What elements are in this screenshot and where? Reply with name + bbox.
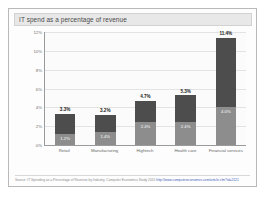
bar-segment-upper[interactable] — [95, 115, 115, 132]
x-axis-category-label: Retail — [47, 146, 81, 164]
bar-total-label: 5.3% — [180, 89, 190, 94]
x-axis-category-label: Financial services — [209, 146, 243, 164]
x-axis-category-label: Health care — [168, 146, 202, 164]
bar-total-label: 4.7% — [140, 94, 150, 99]
footnote-link[interactable]: http://www.computereconomics.com/article… — [156, 178, 238, 182]
bar-segment-upper[interactable] — [135, 101, 155, 123]
bar-series-group: 3.3%1.2%3.2%1.4%4.7%2.4%5.3%2.4%11.4%4.0… — [45, 32, 246, 145]
bar-column: 11.4%4.0% — [209, 32, 243, 145]
bar-segment-lower[interactable]: 4.0% — [216, 107, 236, 145]
bar-segment-lower[interactable]: 2.4% — [135, 122, 155, 145]
footnote: Source: IT Spending as a Percentage of R… — [15, 175, 250, 182]
bar-total-label: 3.3% — [60, 107, 70, 112]
plot-area-wrapper: 12%10%8%6%4%2%0% 3.3%1.2%3.2%1.4%4.7%2.4… — [14, 28, 252, 168]
bar-total-label: 11.4% — [219, 31, 232, 36]
chart-header: IT spend as a percentage of revenue — [14, 13, 252, 26]
y-axis-tick-label: 8% — [36, 67, 42, 72]
bar-segment-label: 1.2% — [60, 136, 70, 141]
bar-segment-label: 4.0% — [221, 109, 231, 114]
plot-area: 12%10%8%6%4%2%0% 3.3%1.2%3.2%1.4%4.7%2.4… — [44, 32, 246, 146]
y-axis-tick-label: 2% — [36, 124, 42, 129]
stacked-bar[interactable]: 3.2%1.4% — [95, 115, 115, 145]
stacked-bar[interactable]: 11.4%4.0% — [216, 38, 236, 145]
bar-segment-lower[interactable]: 2.4% — [175, 122, 195, 145]
bar-segment-upper[interactable] — [175, 95, 195, 122]
bar-column: 3.2%1.4% — [88, 32, 122, 145]
x-axis-category-label: Manufacturing — [87, 146, 121, 164]
bar-segment-upper[interactable] — [55, 114, 75, 134]
bar-column: 3.3%1.2% — [48, 32, 82, 145]
bar-column: 5.3%2.4% — [169, 32, 203, 145]
stacked-bar[interactable]: 5.3%2.4% — [175, 95, 195, 145]
x-axis-labels: RetailManufacturingHightechHealth careFi… — [44, 146, 246, 164]
y-axis-tick-label: 12% — [33, 30, 42, 35]
bar-segment-label: 2.4% — [141, 124, 151, 129]
stacked-bar[interactable]: 3.3%1.2% — [55, 114, 75, 145]
bar-segment-upper[interactable] — [216, 38, 236, 108]
bar-segment-lower[interactable]: 1.4% — [95, 132, 115, 145]
bar-segment-lower[interactable]: 1.2% — [55, 134, 75, 145]
x-axis-category-label: Hightech — [128, 146, 162, 164]
bar-segment-label: 2.4% — [181, 124, 191, 129]
bar-total-label: 3.2% — [100, 108, 110, 113]
y-axis-tick-label: 6% — [36, 86, 42, 91]
footnote-text: Source: IT Spending as a Percentage of R… — [15, 178, 156, 182]
y-axis-tick-label: 0% — [36, 143, 42, 148]
page-title: IT spend as a percentage of revenue — [19, 16, 127, 23]
bar-column: 4.7%2.4% — [128, 32, 162, 145]
stacked-bar[interactable]: 4.7%2.4% — [135, 101, 155, 145]
y-axis-tick-label: 10% — [33, 48, 42, 53]
y-axis-tick-label: 4% — [36, 105, 42, 110]
bar-segment-label: 1.4% — [100, 134, 110, 139]
chart-card: IT spend as a percentage of revenue 12%1… — [8, 8, 257, 187]
